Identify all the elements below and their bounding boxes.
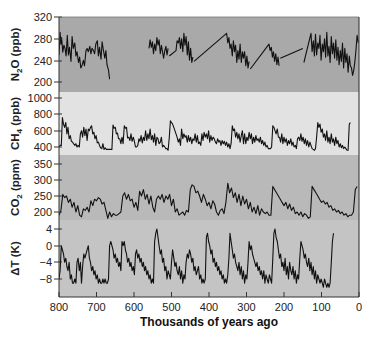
y-tick-label: −8 xyxy=(39,273,52,285)
x-tick-label: 700 xyxy=(87,301,105,313)
x-axis-title: Thousands of years ago xyxy=(140,315,278,329)
y-tick-label: 800 xyxy=(34,108,52,120)
y-axis-dt: 40−4−8ΔT (K) xyxy=(9,223,62,285)
y-tick-label: 0 xyxy=(46,240,52,252)
y-axis-n2o: 320280240200N2O (ppb) xyxy=(9,11,62,88)
y-tick-label: 4 xyxy=(46,223,52,235)
dt-axis-title: ΔT (K) xyxy=(9,241,21,276)
y-tick-label: 280 xyxy=(34,33,52,45)
y-tick-label: 300 xyxy=(34,174,52,186)
co2-axis-title: CO2 (ppm) xyxy=(9,159,24,216)
panel-co2 xyxy=(59,155,359,220)
x-tick-label: 300 xyxy=(237,301,255,313)
panel-dt xyxy=(59,220,359,297)
chart-panels xyxy=(59,17,359,297)
x-tick-label: 200 xyxy=(275,301,293,313)
y-tick-label: 200 xyxy=(34,76,52,88)
y-tick-label: 240 xyxy=(34,55,52,67)
y-tick-label: 1000 xyxy=(28,92,52,104)
y-tick-label: 200 xyxy=(34,206,52,218)
y-axis-co2: 350300250200CO2 (ppm) xyxy=(9,158,62,218)
ch4-axis-title: CH4 (ppb) xyxy=(9,97,24,150)
x-tick-label: 400 xyxy=(200,301,218,313)
panel-n2o xyxy=(59,17,359,92)
y-tick-label: 350 xyxy=(34,158,52,170)
panel-ch4 xyxy=(59,92,359,155)
y-tick-label: −4 xyxy=(39,256,52,268)
y-tick-label: 600 xyxy=(34,125,52,137)
x-tick-label: 0 xyxy=(356,301,362,313)
x-tick-label: 100 xyxy=(312,301,330,313)
x-tick-label: 500 xyxy=(162,301,180,313)
y-axis-ch4: 1000800600400CH4 (ppb) xyxy=(9,92,62,153)
ice-core-chart: 320280240200N2O (ppb)1000800600400CH4 (p… xyxy=(0,0,381,340)
panel-background xyxy=(59,220,359,297)
n2o-axis-title: N2O (ppb) xyxy=(9,28,24,82)
y-tick-label: 320 xyxy=(34,11,52,23)
y-axes: 320280240200N2O (ppb)1000800600400CH4 (p… xyxy=(9,11,62,285)
y-tick-label: 400 xyxy=(34,141,52,153)
y-tick-label: 250 xyxy=(34,190,52,202)
panel-background xyxy=(59,155,359,220)
panel-background xyxy=(59,92,359,155)
x-tick-label: 600 xyxy=(125,301,143,313)
x-tick-label: 800 xyxy=(50,301,68,313)
